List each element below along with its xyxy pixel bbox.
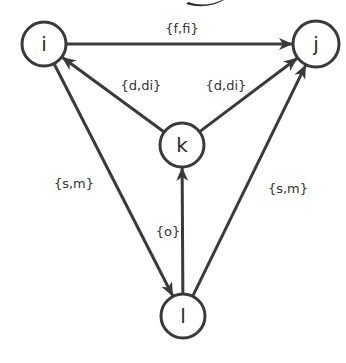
node-k: k (160, 123, 204, 167)
edge-label-l-k: {o} (156, 224, 181, 239)
edge-label-i-j: {f,fi} (165, 21, 198, 36)
node-label: i (41, 32, 47, 56)
cropped-shape (186, 0, 224, 6)
edge-label-l-j: {s,m} (268, 181, 308, 196)
edge-k-to-j (200, 58, 296, 131)
edge-k-to-i (63, 58, 164, 132)
node-j: j (293, 21, 339, 67)
node-label: l (180, 304, 186, 328)
edge-label-i-l: {s,m} (54, 176, 94, 191)
edge-label-k-i: {d,di} (121, 78, 162, 93)
node-l: l (161, 294, 205, 338)
edge-l-to-k (182, 168, 183, 293)
graph-canvas: ijkl {f,fi}{d,di}{d,di}{s,m}{o}{s,m} (0, 0, 346, 363)
node-i: i (22, 22, 66, 66)
edge-label-k-j: {d,di} (206, 78, 247, 93)
node-label: k (176, 133, 188, 157)
node-label: j (312, 32, 319, 56)
